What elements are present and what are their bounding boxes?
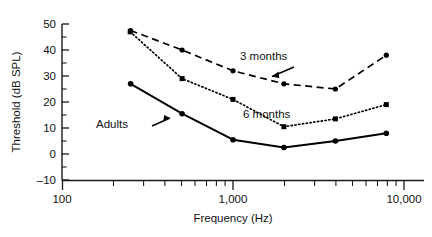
y-tick-label-20: 20 <box>43 96 56 108</box>
data-point <box>384 102 389 107</box>
chart-svg: 50 40 30 20 10 0 –10 Threshold (dB SPL) <box>0 0 432 237</box>
threshold-frequency-chart: 50 40 30 20 10 0 –10 Threshold (dB SPL) <box>0 0 432 237</box>
data-point <box>128 81 134 87</box>
y-tick-label-40: 40 <box>43 44 56 56</box>
y-tick-label-30: 30 <box>43 70 56 82</box>
x-tick-label-100: 100 <box>52 193 71 205</box>
data-point <box>384 130 390 136</box>
x-tick-label-10000: 10,000 <box>386 193 421 205</box>
data-point <box>179 111 185 117</box>
data-point <box>281 145 287 151</box>
y-tick-label-0: 0 <box>50 148 56 160</box>
y-tick-label-50: 50 <box>43 18 56 30</box>
data-point <box>281 81 286 86</box>
data-point <box>128 29 133 34</box>
y-tick-label-minus-10: –10 <box>37 174 56 186</box>
data-point <box>231 97 236 102</box>
data-point <box>180 76 185 81</box>
data-point <box>333 116 338 121</box>
series-label-3-months: 3 months <box>240 50 288 62</box>
data-point <box>281 124 286 129</box>
series-label-adults: Adults <box>96 118 128 130</box>
x-axis-title: Frequency (Hz) <box>193 212 272 224</box>
annotation-6-months: 6 months <box>243 108 291 120</box>
data-point <box>180 47 185 52</box>
data-point <box>384 53 389 58</box>
data-point <box>230 68 235 73</box>
data-point <box>333 138 339 144</box>
data-point <box>333 86 338 91</box>
y-tick-label-10: 10 <box>43 122 56 134</box>
y-axis-title: Threshold (dB SPL) <box>10 51 22 152</box>
series-label-6-months: 6 months <box>243 108 291 120</box>
data-point <box>230 137 236 143</box>
x-tick-label-1000: 1,000 <box>219 193 248 205</box>
